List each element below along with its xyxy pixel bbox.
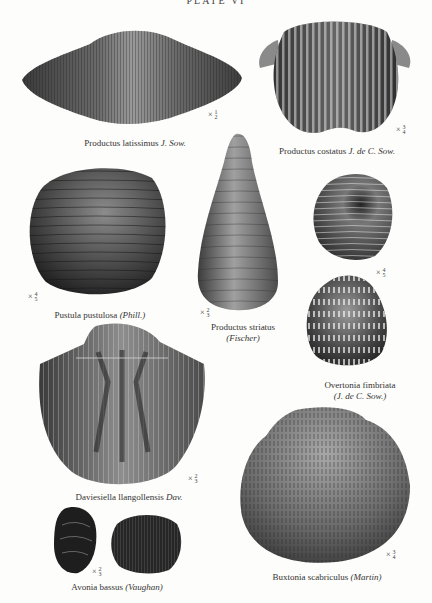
figure-avonia-bassus-ventral xyxy=(107,512,183,574)
species-name: Productus costatus xyxy=(279,146,346,156)
figure-daviesiella-llangollensis xyxy=(36,322,208,492)
species-author: J. de C. Sow. xyxy=(349,146,395,156)
caption-productus-latissimus: Productus latissimus J. Sow. xyxy=(60,138,210,148)
scale-denominator: 4 xyxy=(403,130,406,135)
species-name: Overtonia fimbriata xyxy=(310,380,410,391)
caption-productus-costatus: Productus costatus J. de C. Sow. xyxy=(272,146,402,156)
species-author: (Martin) xyxy=(351,572,382,582)
scale-label: × 34 xyxy=(386,550,396,560)
caption-productus-striatus: Productus striatus (Fischer) xyxy=(198,322,288,344)
scale-prefix: × xyxy=(188,474,193,483)
scale-label: × 45 xyxy=(28,292,38,302)
fossil-shell-illustration xyxy=(36,322,208,492)
figure-productus-costatus xyxy=(252,18,417,138)
scale-fraction: 34 xyxy=(403,125,406,135)
species-name: Buxtonia scabriculus xyxy=(273,572,349,582)
species-name: Productus striatus xyxy=(198,322,288,333)
scale-fraction: 23 xyxy=(195,474,198,484)
fossil-shell-illustration xyxy=(302,272,392,370)
scale-label: × 12 xyxy=(208,110,218,120)
figure-overtonia-fimbriata-dorsal xyxy=(309,170,395,262)
scale-denominator: 2 xyxy=(215,115,218,120)
fossil-shell-illustration xyxy=(252,18,417,138)
scale-label: × 34 xyxy=(396,125,406,135)
scale-denominator: 5 xyxy=(35,297,38,302)
fossil-shell-illustration xyxy=(22,160,170,300)
scale-prefix: × xyxy=(386,550,391,559)
fossil-shell-illustration xyxy=(107,512,183,574)
scale-fraction: 23 xyxy=(207,308,210,318)
scale-prefix: × xyxy=(200,308,205,317)
caption-overtonia-fimbriata: Overtonia fimbriata (J. de C. Sow.) xyxy=(310,380,410,402)
scale-denominator: 4 xyxy=(393,555,396,560)
scale-fraction: 45 xyxy=(35,292,38,302)
species-author: J. Sow. xyxy=(161,138,186,148)
figure-productus-striatus xyxy=(194,132,286,312)
species-name: Daviesiella llangollensis xyxy=(75,492,163,502)
scale-prefix: × xyxy=(396,125,401,134)
scale-denominator: 3 xyxy=(195,479,198,484)
plate-title: PLATE VI xyxy=(0,0,432,6)
scale-fraction: 23 xyxy=(99,567,102,577)
scale-fraction: 12 xyxy=(215,110,218,120)
scale-denominator: 3 xyxy=(99,572,102,577)
caption-pustula-pustulosa: Pustula pustulosa (Phill.) xyxy=(40,310,160,320)
species-name: Avonia bassus xyxy=(71,582,123,592)
fossil-shell-illustration xyxy=(50,505,100,575)
fossil-shell-illustration xyxy=(309,170,395,262)
figure-buxtonia-scabriculus xyxy=(236,406,412,566)
scale-label: × 23 xyxy=(200,308,210,318)
species-name: Pustula pustulosa xyxy=(55,310,118,320)
figure-overtonia-fimbriata-ventral xyxy=(302,272,392,370)
scale-denominator: 3 xyxy=(207,313,210,318)
scale-label: × 23 xyxy=(92,567,102,577)
scale-prefix: × xyxy=(208,110,213,119)
caption-daviesiella-llangollensis: Daviesiella llangollensis Dav. xyxy=(64,492,194,502)
caption-avonia-bassus: Avonia bassus (Vaughan) xyxy=(62,582,172,592)
figure-pustula-pustulosa xyxy=(22,160,170,300)
figure-avonia-bassus-side xyxy=(50,505,100,575)
scale-prefix: × xyxy=(28,292,33,301)
species-name: Productus latissimus xyxy=(84,138,158,148)
caption-buxtonia-scabriculus: Buxtonia scabriculus (Martin) xyxy=(262,572,392,582)
fossil-shell-illustration xyxy=(194,132,286,312)
scale-fraction: 34 xyxy=(393,550,396,560)
species-author: Dav. xyxy=(166,492,183,502)
species-author: (Fischer) xyxy=(226,333,260,343)
species-author: (Vaughan) xyxy=(125,582,163,592)
species-author: (J. de C. Sow.) xyxy=(334,391,386,401)
species-author: (Phill.) xyxy=(120,310,146,320)
scale-label: × 23 xyxy=(188,474,198,484)
scale-prefix: × xyxy=(92,567,97,576)
fossil-shell-illustration xyxy=(236,406,412,566)
